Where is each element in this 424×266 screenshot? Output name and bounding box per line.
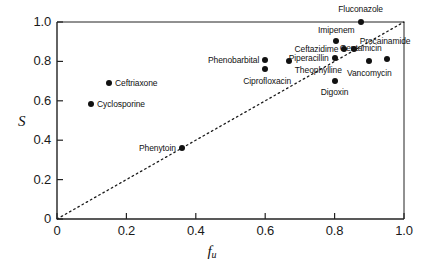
- data-point-marker: [358, 19, 364, 25]
- data-point-marker: [332, 78, 338, 84]
- x-tick-label: 0: [37, 224, 77, 237]
- y-tick-label: 0.4: [17, 133, 51, 146]
- x-axis-title-subscript: u: [212, 249, 217, 260]
- data-point-label: Ciprofloxacin: [243, 77, 291, 86]
- data-point-marker: [332, 55, 338, 61]
- data-point-label: Imipenem: [318, 25, 355, 34]
- y-tick-label: 0.2: [17, 173, 51, 186]
- data-point-label: Phenobarbital: [208, 56, 259, 65]
- data-point-label: Fluconazole: [338, 5, 383, 14]
- data-point-label: Gentamicin: [340, 44, 382, 53]
- data-point-label: Digoxin: [321, 88, 349, 97]
- y-tick-label: 0.6: [17, 94, 51, 107]
- data-point-label: Piperacillin: [289, 53, 329, 62]
- data-point-marker: [384, 56, 390, 62]
- data-point-label: Ceftriaxone: [115, 79, 157, 88]
- data-point-marker: [179, 145, 185, 151]
- y-tick-label: 1.0: [17, 15, 51, 28]
- data-point-label: Vancomycin: [347, 68, 392, 77]
- x-tick-label: 0.6: [245, 224, 285, 237]
- data-point-label: Cyclosporine: [97, 100, 145, 109]
- y-axis-title: S: [18, 113, 26, 130]
- x-tick-label: 0.8: [315, 224, 355, 237]
- x-tick-label: 0.4: [176, 224, 216, 237]
- x-tick-label: 1.0: [384, 224, 424, 237]
- x-axis-title: fu: [207, 243, 216, 260]
- data-point-label: Theophylline: [295, 66, 342, 75]
- y-tick-label: 0.8: [17, 54, 51, 67]
- scatter-plot-figure: 00.20.40.60.81.0 00.20.40.60.81.0 S fu F…: [0, 0, 424, 266]
- x-tick-label: 0.2: [106, 224, 146, 237]
- data-point-label: Phenytoin: [139, 144, 176, 153]
